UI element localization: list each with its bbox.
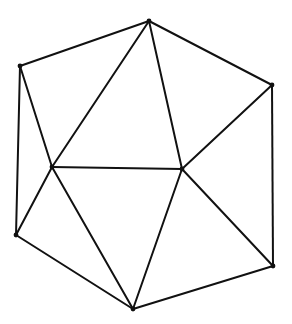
edge-lower_right-bottom <box>133 266 273 309</box>
edge-inner_left-lower_left <box>16 167 52 235</box>
edge-top-inner_right <box>149 21 182 169</box>
triangulation-diagram <box>0 0 292 324</box>
edge-lower_left-bottom <box>16 235 133 309</box>
edge-inner_left-bottom <box>52 167 133 309</box>
edge-group <box>16 21 273 309</box>
node-bottom <box>131 307 136 312</box>
node-lower_left <box>14 233 19 238</box>
edge-upper_left-inner_left <box>20 66 52 167</box>
edge-upper_left-lower_left <box>16 66 20 235</box>
node-inner_left <box>50 165 55 170</box>
edge-upper_right-lower_right <box>272 85 273 266</box>
node-upper_right <box>270 83 275 88</box>
edge-top-upper_right <box>149 21 272 85</box>
node-upper_left <box>18 64 23 69</box>
edge-inner_right-lower_right <box>182 169 273 266</box>
node-top <box>147 19 152 24</box>
node-group <box>14 19 276 312</box>
node-inner_right <box>180 167 185 172</box>
edge-top-inner_left <box>52 21 149 167</box>
edge-top-upper_left <box>20 21 149 66</box>
edge-inner_left-inner_right <box>52 167 182 169</box>
edge-inner_right-bottom <box>133 169 182 309</box>
edge-upper_right-inner_right <box>182 85 272 169</box>
node-lower_right <box>271 264 276 269</box>
